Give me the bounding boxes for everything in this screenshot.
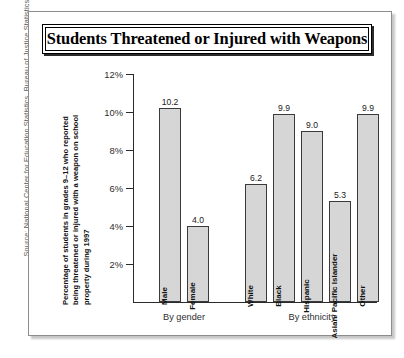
y-tick-label-4%: 4%: [109, 221, 123, 232]
bar-value-label: 9.9: [362, 103, 374, 113]
y-tick-8%: [126, 150, 133, 151]
bar-category-label: White: [246, 285, 256, 307]
plot-area: 2%4%6%8%10%12% 10.2Male4.0Female6.2White…: [133, 74, 359, 302]
bar-female[interactable]: 4.0Female: [187, 226, 209, 302]
bar-other[interactable]: 9.9Other: [357, 114, 379, 302]
y-tick-4%: [126, 226, 133, 227]
chart-title: Students Threatened or Injured with Weap…: [47, 29, 368, 49]
bar-category-label: Other: [358, 285, 368, 306]
title-plate-inner: Students Threatened or Injured with Weap…: [45, 27, 369, 51]
group-label-by-gender: By gender: [163, 312, 205, 322]
bar-category-label: Black: [274, 285, 284, 306]
y-tick-label-6%: 6%: [109, 183, 123, 194]
y-axis-title-line-1: Percentage of students in grades 9–12 wh…: [61, 90, 71, 305]
bar-male[interactable]: 10.2Male: [159, 108, 181, 302]
bar-white[interactable]: 6.2White: [245, 184, 267, 302]
y-tick-6%: [126, 188, 133, 189]
bar-value-label: 9.0: [306, 120, 318, 130]
y-tick-10%: [126, 112, 133, 113]
bar-black[interactable]: 9.9Black: [273, 114, 295, 302]
bar-asian-pacific-islander[interactable]: 5.3Asian/ Pacific Islander: [329, 201, 351, 302]
bar-value-label: 4.0: [192, 215, 204, 225]
y-axis-title-line-2: being threatened or injured with a weapo…: [71, 90, 81, 305]
bar-category-label: Female: [188, 282, 198, 310]
bar-category-label: Male: [160, 287, 170, 305]
group-label-by-ethnicity: By ethnicity: [289, 312, 336, 322]
y-tick-label-8%: 8%: [109, 145, 123, 156]
bar-value-label: 10.2: [162, 97, 179, 107]
bar-category-label: Hispanic: [302, 279, 312, 312]
bar-hispanic[interactable]: 9.0Hispanic: [301, 131, 323, 302]
y-axis-title: Percentage of students in grades 9–12 wh…: [61, 90, 92, 305]
y-tick-label-10%: 10%: [104, 107, 123, 118]
y-tick-2%: [126, 264, 133, 265]
y-tick-label-2%: 2%: [109, 259, 123, 270]
y-tick-12%: [126, 74, 133, 75]
y-axis-title-line-3: property during 1997: [82, 90, 92, 305]
y-tick-label-12%: 12%: [104, 69, 123, 80]
bar-value-label: 5.3: [334, 190, 346, 200]
figure-frame: Students Threatened or Injured with Weap…: [28, 11, 392, 336]
title-plate: Students Threatened or Injured with Weap…: [42, 24, 372, 54]
bar-value-label: 9.9: [278, 103, 290, 113]
bar-category-label: Asian/ Pacific Islander: [330, 254, 340, 339]
bar-value-label: 6.2: [250, 173, 262, 183]
y-axis-line: [133, 74, 134, 302]
